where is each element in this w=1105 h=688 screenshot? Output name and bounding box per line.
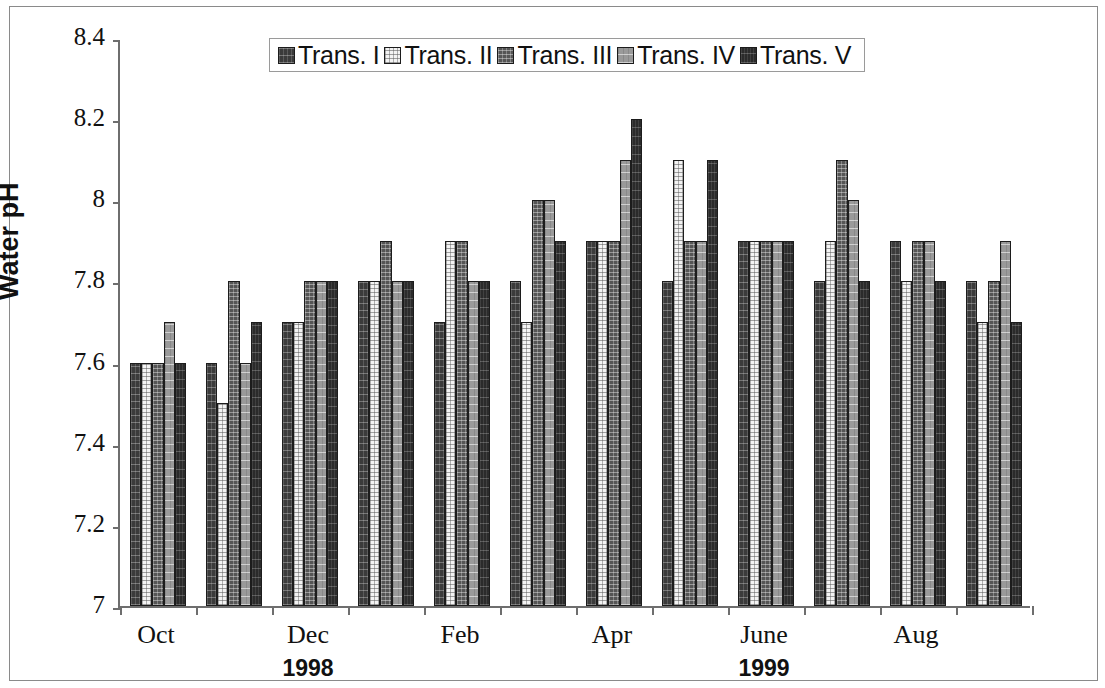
bar <box>392 281 403 606</box>
bar <box>532 200 543 606</box>
x-axis-year-label: 1998 <box>238 655 378 682</box>
y-axis-tick <box>113 365 120 367</box>
legend-swatch-icon <box>740 47 757 64</box>
bar <box>228 281 239 606</box>
bar <box>445 241 456 606</box>
bar <box>240 363 251 606</box>
x-axis-tick <box>424 606 426 615</box>
bar <box>175 363 186 606</box>
bar <box>510 281 521 606</box>
plot-area <box>118 40 1030 608</box>
bar <box>282 322 293 606</box>
bar <box>403 281 414 606</box>
bar <box>631 119 642 606</box>
legend-swatch-icon <box>278 47 295 64</box>
x-axis-tick <box>956 606 958 615</box>
bar-group <box>424 40 500 606</box>
legend-item: Trans. II <box>384 41 497 70</box>
legend-label: Trans. V <box>760 41 851 70</box>
y-axis-tick-label: 7.2 <box>15 510 105 538</box>
bar <box>890 241 901 606</box>
bar <box>316 281 327 606</box>
bar <box>966 281 977 606</box>
bar <box>434 322 445 606</box>
bar <box>620 160 631 606</box>
bar <box>988 281 999 606</box>
bar-group <box>500 40 576 606</box>
bar <box>673 160 684 606</box>
x-axis-tick-label: Aug <box>856 620 976 650</box>
bar <box>206 363 217 606</box>
bar <box>814 281 825 606</box>
bar-group <box>576 40 652 606</box>
bar <box>772 241 783 606</box>
bar <box>662 281 673 606</box>
bar-group <box>804 40 880 606</box>
bar <box>327 281 338 606</box>
bar <box>836 160 847 606</box>
bar-group <box>196 40 272 606</box>
bar <box>164 322 175 606</box>
x-axis-tick-label: Feb <box>400 620 520 650</box>
bar <box>738 241 749 606</box>
x-axis-tick <box>880 606 882 615</box>
bar <box>760 241 771 606</box>
x-axis-tick <box>576 606 578 615</box>
bar <box>521 322 532 606</box>
bar <box>848 200 859 606</box>
y-axis-tick <box>113 283 120 285</box>
bar <box>783 241 794 606</box>
x-axis-tick <box>272 606 274 615</box>
legend-item: Trans. III <box>497 41 617 70</box>
bar <box>825 241 836 606</box>
bar <box>608 241 619 606</box>
x-axis-tick <box>348 606 350 615</box>
legend-label: Trans. III <box>517 41 612 70</box>
bar <box>707 160 718 606</box>
bar <box>141 363 152 606</box>
bar-group <box>348 40 424 606</box>
x-axis-year-label: 1999 <box>694 655 834 682</box>
bar <box>924 241 935 606</box>
x-axis-tick <box>804 606 806 615</box>
y-axis-tick-label: 7.6 <box>15 348 105 376</box>
legend-label: Trans. II <box>404 41 492 70</box>
bar <box>380 241 391 606</box>
y-axis-tick-label: 7 <box>15 591 105 619</box>
legend-item: Trans. IV <box>617 41 740 70</box>
x-axis-tick-label: June <box>704 620 824 650</box>
bar <box>217 403 228 606</box>
y-axis-tick-label: 7.4 <box>15 429 105 457</box>
y-axis-tick-label: 7.8 <box>15 266 105 294</box>
bar <box>544 200 555 606</box>
bar <box>597 241 608 606</box>
bar <box>696 241 707 606</box>
bar <box>468 281 479 606</box>
x-axis-tick <box>500 606 502 615</box>
bar <box>479 281 490 606</box>
chart-legend: Trans. ITrans. IITrans. IIITrans. IVTran… <box>269 38 865 72</box>
y-axis-tick-label: 8.2 <box>15 104 105 132</box>
legend-item: Trans. I <box>278 41 384 70</box>
bar <box>152 363 163 606</box>
legend-swatch-icon <box>384 47 401 64</box>
x-axis-tick <box>120 606 122 615</box>
bar <box>977 322 988 606</box>
legend-label: Trans. IV <box>637 41 735 70</box>
y-axis-tick <box>113 40 120 42</box>
plot-inner <box>120 40 1030 606</box>
x-axis-tick <box>728 606 730 615</box>
x-axis-tick-label: Dec <box>248 620 368 650</box>
bar-group <box>652 40 728 606</box>
bar <box>555 241 566 606</box>
bar <box>749 241 760 606</box>
bar <box>1011 322 1022 606</box>
bar <box>935 281 946 606</box>
x-axis-tick <box>196 606 198 615</box>
y-axis-tick <box>113 446 120 448</box>
x-axis-tick <box>1032 606 1034 615</box>
bar <box>251 322 262 606</box>
bar <box>293 322 304 606</box>
x-axis-tick-label: Apr <box>552 620 672 650</box>
bar <box>684 241 695 606</box>
